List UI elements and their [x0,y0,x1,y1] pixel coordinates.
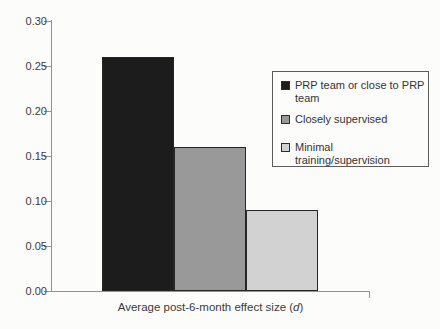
bar-chart-figure: 0.000.050.100.150.200.250.30 PRP team or… [0,0,440,329]
y-tick-label: 0.15 [17,149,47,163]
legend-item-minimal-training: Minimal training/supervision [281,141,425,167]
y-axis-line [51,20,52,292]
legend-box: PRP team or close to PRP teamClosely sup… [272,71,429,167]
legend-item-prp-team: PRP team or close to PRP team [281,79,425,105]
y-tick-label: 0.25 [17,59,47,73]
y-tick-label: 0.00 [17,284,47,298]
legend-marker-closely-supervised-icon [281,115,290,124]
legend-label: Minimal training/supervision [295,141,425,167]
y-tick-label: 0.30 [17,14,47,28]
y-tick-label: 0.20 [17,104,47,118]
legend-marker-minimal-training-icon [281,143,290,152]
bar-minimal-training [246,210,318,291]
legend-marker-prp-team-icon [281,81,290,90]
x-axis-label-text: Average post-6-month effect size ( [118,301,293,313]
legend-item-closely-supervised: Closely supervised [281,113,425,126]
x-axis-end-tick [369,291,370,298]
y-tick-label: 0.05 [17,239,47,253]
legend-label: PRP team or close to PRP team [295,79,425,105]
x-axis-label-suffix: ) [299,301,303,313]
bar-closely-supervised [174,147,246,291]
x-axis-label: Average post-6-month effect size (d) [51,301,370,313]
y-tick-label: 0.10 [17,194,47,208]
x-axis-line [51,291,370,292]
legend-label: Closely supervised [295,113,387,126]
bar-prp-team [102,57,174,291]
